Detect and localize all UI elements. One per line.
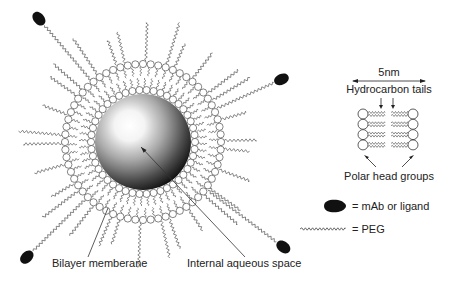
polar-head-group	[143, 87, 150, 94]
hydrocarbon-tail	[191, 109, 199, 114]
polar-head-group	[75, 95, 82, 102]
polar-head-group	[67, 109, 74, 116]
hydrocarbon-tail	[94, 85, 100, 92]
polar-head-group	[162, 64, 169, 71]
polar-head-group	[63, 154, 70, 161]
polar-head-group	[63, 123, 70, 130]
hydrocarbon-tail	[72, 119, 81, 122]
hydrocarbon-tail	[368, 145, 385, 147]
hydrocarbon-tail	[148, 67, 150, 76]
hydrocarbon-tail	[368, 115, 385, 117]
polar-head-group	[71, 175, 78, 182]
hydrocarbon-tail	[168, 85, 172, 93]
hydrocarbon-tail	[73, 166, 81, 170]
hydrocarbon-tail	[196, 155, 205, 158]
hydrocarbon-tail	[193, 116, 201, 120]
polar-head-group	[88, 131, 95, 138]
hydrocarbon-tails-label: Hydrocarbon tails	[346, 83, 432, 95]
hydrocarbon-tail	[152, 207, 155, 216]
hydrocarbon-tail	[206, 161, 215, 164]
hydrocarbon-tail	[191, 187, 198, 193]
hydrocarbon-tail	[105, 199, 110, 207]
hydrocarbon-tail	[160, 195, 163, 204]
polar-head-group	[117, 213, 124, 220]
hydrocarbon-tail	[108, 76, 113, 84]
polar-head-group	[163, 185, 170, 192]
peg-icon	[300, 228, 345, 230]
hydrocarbon-tail	[391, 125, 408, 127]
polar-head-group	[189, 152, 196, 159]
polar-head-group	[132, 216, 139, 223]
hydrocarbon-tail	[162, 71, 165, 80]
ligand-peg-chain	[208, 191, 277, 242]
polar-head-group	[136, 87, 143, 94]
hydrocarbon-tail	[183, 82, 188, 89]
hydrocarbon-tail	[113, 191, 117, 199]
hydrocarbon-tail	[368, 112, 385, 114]
hydrocarbon-tail	[105, 91, 111, 98]
hydrocarbon-tail	[153, 196, 156, 205]
hydrocarbon-tail	[193, 93, 200, 99]
hydrocarbon-tail	[189, 173, 197, 178]
hydrocarbon-tail	[185, 178, 192, 184]
hydrocarbon-tail	[86, 185, 93, 191]
peg-chain	[42, 191, 78, 218]
ligand-peg-chain	[45, 25, 91, 80]
polar-head-group	[204, 95, 211, 102]
polar-head-group	[216, 154, 223, 161]
hydrocarbon-tail	[187, 104, 194, 110]
hydrocarbon-tail	[391, 142, 408, 144]
polar-head-group	[211, 168, 218, 175]
hydrocarbon-tail	[120, 205, 123, 214]
hydrocarbon-tail	[208, 154, 217, 157]
polar-head-group	[211, 109, 218, 116]
polar-head-group	[147, 61, 154, 68]
polar-head-group	[136, 190, 143, 197]
peg-chain	[174, 44, 185, 68]
polar-head-group	[122, 89, 129, 96]
polar-head-group	[62, 131, 69, 138]
polar-head-group	[358, 140, 368, 150]
hydrocarbon-tail	[197, 149, 206, 152]
polar-head-group	[84, 83, 91, 90]
hydrocarbon-tail	[90, 106, 98, 111]
hydrocarbon-tail	[83, 97, 90, 102]
hydrocarbon-tail	[137, 78, 139, 87]
polar-head-group	[162, 213, 169, 220]
peg-chain	[208, 69, 238, 93]
hydrocarbon-tail	[155, 68, 158, 77]
bilayer-membrane-label: Bilayer memberane	[52, 257, 147, 269]
scale-label: 5nm	[378, 66, 399, 78]
polar-head-group	[124, 215, 131, 222]
hydrocarbon-tail	[80, 152, 89, 155]
hydrocarbon-tail	[188, 87, 194, 94]
hydrocarbon-tail	[92, 190, 98, 197]
hydrocarbon-tail	[196, 122, 205, 125]
polar-head-group	[75, 182, 82, 189]
hydrocarbon-tail	[194, 161, 202, 165]
hydrocarbon-tail	[368, 135, 385, 137]
hydrocarbon-tail	[368, 142, 385, 144]
ligand-icon	[274, 238, 293, 256]
ligand-icon	[324, 200, 346, 213]
polar-head-group	[62, 146, 69, 153]
hydrocarbon-tail	[150, 79, 153, 88]
liposome-diagram: Bilayer memberane Internal aqueous space…	[0, 0, 460, 284]
hydrocarbon-tail	[174, 201, 179, 209]
hydrocarbon-tail	[69, 151, 78, 154]
polar-head-group	[189, 199, 196, 206]
peg-chain	[169, 219, 180, 249]
polar-head-group	[169, 66, 176, 73]
polar-head-group	[157, 89, 164, 96]
peg-chain	[221, 111, 246, 120]
hydrocarbon-tail	[179, 93, 185, 100]
polar-head-group	[61, 138, 68, 145]
hydrocarbon-tail	[101, 80, 106, 87]
polar-head-group	[143, 190, 150, 197]
schematic-lipid-row	[358, 130, 418, 140]
polar-head-group	[96, 74, 103, 81]
polar-head-group	[155, 62, 162, 69]
polar-head-group	[103, 70, 110, 77]
hydrocarbon-tail	[207, 122, 216, 125]
peg-chain	[145, 23, 149, 61]
